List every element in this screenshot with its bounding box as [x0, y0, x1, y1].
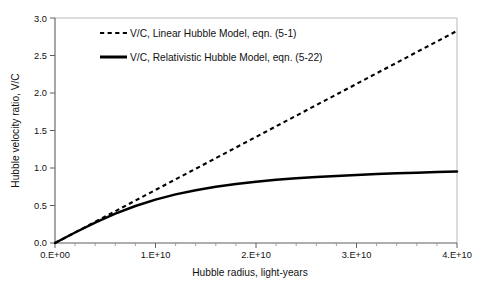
y-tick-label: 2.5	[34, 51, 47, 61]
x-tick-label: 1.E+10	[141, 250, 171, 260]
x-tick-label: 0.E+00	[40, 250, 70, 260]
y-tick-label: 1.0	[34, 163, 47, 173]
chart-figure: 0.0 0.5 1.0 1.5 2.0 2.5 3.0	[0, 0, 490, 285]
y-tick-label: 0.5	[34, 201, 47, 211]
x-axis-title: Hubble radius, light-years	[192, 267, 308, 278]
legend-label-relativistic: V/C, Relativistic Hubble Model, eqn. (5-…	[130, 52, 323, 63]
hubble-velocity-chart: 0.0 0.5 1.0 1.5 2.0 2.5 3.0	[0, 0, 490, 285]
legend-entry-relativistic: V/C, Relativistic Hubble Model, eqn. (5-…	[100, 52, 323, 63]
x-tick-label: 2.E+10	[241, 250, 271, 260]
y-tick-label: 2.0	[34, 88, 47, 98]
y-axis-title: Hubble velocity ratio, V/C	[10, 73, 21, 187]
legend-entry-linear: V/C, Linear Hubble Model, eqn. (5-1)	[100, 28, 296, 39]
y-tick-label: 1.5	[34, 126, 47, 136]
legend-label-linear: V/C, Linear Hubble Model, eqn. (5-1)	[130, 28, 296, 39]
y-tick-label: 3.0	[34, 14, 47, 24]
y-tick-label: 0.0	[34, 238, 47, 248]
x-tick-label: 4.E+10	[442, 250, 472, 260]
x-tick-label: 3.E+10	[342, 250, 372, 260]
